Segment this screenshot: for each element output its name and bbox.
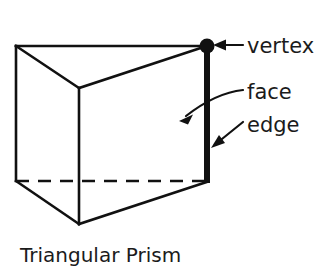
vertex-dot-icon <box>200 39 215 54</box>
prism-edge-top-front-left <box>16 46 79 88</box>
edge-label: edge <box>247 113 300 137</box>
vertex-pointer-arrow-icon <box>213 40 243 51</box>
prism-edge-bottom-front-left <box>16 181 79 224</box>
edge-pointer-arrow-icon <box>211 122 243 148</box>
face-label: face <box>247 80 292 104</box>
prism-edge-bottom-front-right <box>79 182 207 224</box>
vertex-label: vertex <box>247 34 314 58</box>
prism-edge-top-front-right <box>79 46 207 88</box>
prism-diagram-canvas: vertex face edge Triangular Prism <box>0 0 325 276</box>
triangular-prism-figure: vertex face edge Triangular Prism <box>0 0 325 276</box>
face-pointer-arrow-icon <box>179 90 243 125</box>
figure-caption: Triangular Prism <box>19 243 181 267</box>
